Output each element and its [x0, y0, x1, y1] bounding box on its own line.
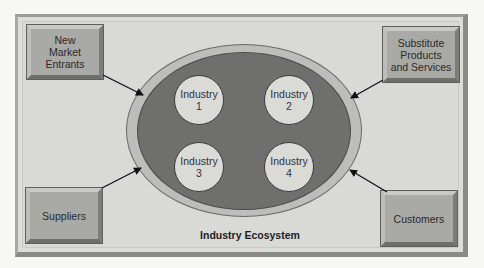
arrow-new-entrants	[103, 75, 143, 95]
arrow-suppliers	[102, 168, 141, 188]
arrow-layer	[0, 0, 484, 268]
arrow-customers	[350, 170, 387, 192]
arrow-substitutes	[351, 80, 383, 98]
